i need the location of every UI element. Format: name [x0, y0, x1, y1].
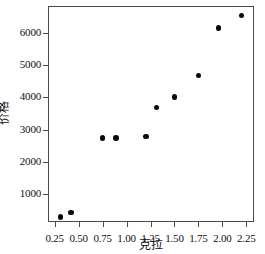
data-point — [68, 210, 74, 216]
data-point — [113, 135, 119, 141]
x-axis-title: 克拉 — [48, 238, 254, 252]
x-axis-tick-mark — [174, 222, 175, 227]
data-point — [143, 134, 149, 140]
y-axis-tick-label: 1000 — [0, 188, 41, 199]
x-axis-tick-mark — [151, 222, 152, 227]
x-axis-tick-mark — [127, 222, 128, 227]
data-point — [58, 214, 64, 220]
y-axis-tick-mark — [43, 65, 48, 66]
x-axis-tick-mark — [55, 222, 56, 227]
x-axis-tick-mark — [79, 222, 80, 227]
x-axis-tick-mark — [103, 222, 104, 227]
data-points-layer — [49, 7, 253, 221]
y-axis-tick-label: 2000 — [0, 156, 41, 167]
y-axis-title: 价格 — [0, 91, 11, 135]
data-point — [196, 73, 202, 79]
plot-area — [48, 6, 254, 222]
data-point — [100, 135, 106, 141]
y-axis-tick-mark — [43, 130, 48, 131]
y-axis-tick-label: 6000 — [0, 27, 41, 38]
y-axis-tick-label: 5000 — [0, 59, 41, 70]
data-point — [154, 105, 160, 111]
y-axis-tick-mark — [43, 97, 48, 98]
x-axis-tick-mark — [198, 222, 199, 227]
data-point — [239, 13, 245, 19]
y-axis-tick-mark — [43, 162, 48, 163]
data-point — [172, 94, 178, 100]
scatter-plot-figure: 100020003000400050006000 0.250.500.751.0… — [0, 0, 265, 254]
x-axis-tick-mark — [222, 222, 223, 227]
x-axis-tick-mark — [246, 222, 247, 227]
data-point — [216, 25, 222, 31]
y-axis-tick-mark — [43, 33, 48, 34]
y-axis-tick-mark — [43, 194, 48, 195]
